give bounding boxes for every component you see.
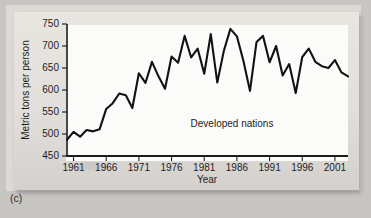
y-tick-label: 600 — [42, 84, 59, 95]
y-tick-label: 450 — [42, 150, 59, 161]
series-annotation-label: Developed nations — [191, 118, 274, 129]
y-axis-title: Metric tons per person — [20, 40, 31, 140]
y-tick-label: 750 — [42, 18, 59, 29]
figure-caption: (c) — [10, 192, 22, 204]
x-axis-title: Year — [197, 174, 218, 185]
y-tick-label: 550 — [42, 106, 59, 117]
x-tick-label: 1986 — [226, 162, 249, 173]
x-axis-ticks: 196119661971197619811986199119962001 — [62, 156, 346, 173]
x-tick-label: 1991 — [258, 162, 281, 173]
x-tick-label: 1971 — [128, 162, 151, 173]
x-tick-label: 1996 — [291, 162, 314, 173]
x-tick-label: 1976 — [160, 162, 183, 173]
x-tick-label: 1966 — [95, 162, 118, 173]
y-tick-label: 700 — [42, 40, 59, 51]
x-tick-label: 2001 — [324, 162, 347, 173]
y-tick-label: 500 — [42, 128, 59, 139]
line-chart: 450500550600650700750 196119661971197619… — [0, 0, 371, 218]
x-tick-label: 1981 — [193, 162, 216, 173]
y-tick-label: 650 — [42, 62, 59, 73]
x-tick-label: 1961 — [62, 162, 85, 173]
y-axis-ticks: 450500550600650700750 — [42, 18, 67, 161]
